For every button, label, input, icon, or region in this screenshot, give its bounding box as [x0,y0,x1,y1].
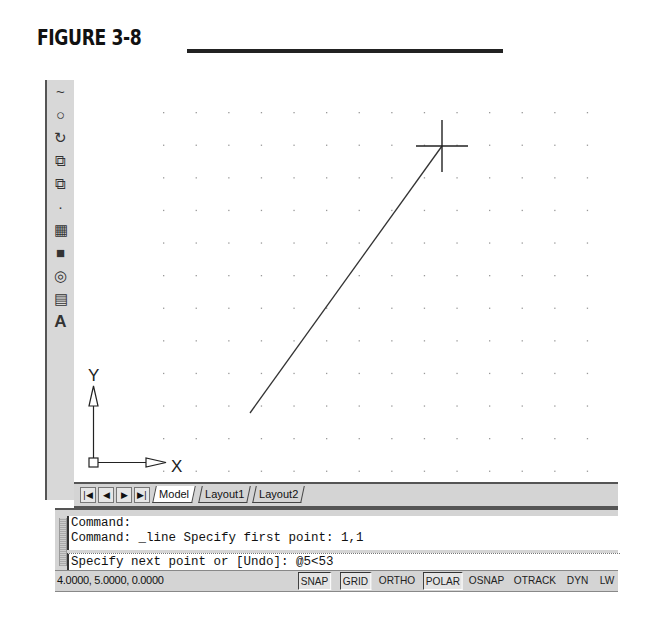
status-bar: 4.0000, 5.0000, 0.0000 SNAPGRIDORTHOPOLA… [55,570,618,592]
figure-rule [187,49,503,53]
tab-layout2[interactable]: Layout2 [252,486,305,503]
multiline-text-icon: A [54,312,66,332]
tab-layout1[interactable]: Layout1 [198,486,251,503]
status-toggle-polar[interactable]: POLAR [423,572,463,590]
spline-icon: ~ [56,83,65,100]
gradient-icon: ■ [56,244,65,261]
make-block-button[interactable]: ⧉ [47,172,74,195]
status-toggle-otrack[interactable]: OTRACK [512,572,558,588]
insert-block-button[interactable]: ⧉ [47,149,74,172]
crosshair-cursor [416,120,468,172]
table-button[interactable]: ▤ [47,287,74,310]
command-window: Command: Command: _line Specify first po… [55,508,618,570]
status-toggle-dyn[interactable]: DYN [565,572,590,588]
command-history: Command: Command: _line Specify first po… [67,516,620,550]
tab-prev-button[interactable]: ◀ [98,487,114,503]
grid-dots [163,112,588,472]
tab-next-button[interactable]: ▶ [116,487,132,503]
make-block-icon: ⧉ [55,175,66,193]
ellipse-icon: ○ [56,106,65,123]
point-button[interactable]: · [47,195,74,218]
gradient-button[interactable]: ■ [47,241,74,264]
region-button[interactable]: ◎ [47,264,74,287]
status-toggle-snap[interactable]: SNAP [298,572,331,590]
hatch-button[interactable]: ▦ [47,218,74,241]
command-history-line: Command: [71,516,620,531]
tab-first-button[interactable]: |◀ [80,487,96,503]
tab-model[interactable]: Model [152,486,196,503]
ellipse-arc-button[interactable]: ↻ [47,126,74,149]
ellipse-arc-icon: ↻ [54,129,67,147]
ucs-x-label: X [171,457,182,476]
table-icon: ▤ [54,290,68,308]
ucs-icon: Y X [88,366,182,476]
status-toggle-grid[interactable]: GRID [340,572,371,590]
region-icon: ◎ [54,267,67,285]
layout-tab-bar: |◀ ◀ ▶ ▶| Model Layout1 Layout2 [74,482,618,508]
drawing-area[interactable]: Y X [74,80,618,482]
draw-toolbar: ~○↻⧉⧉·▦■◎▤A [45,80,76,500]
coordinate-display: 4.0000, 5.0000, 0.0000 [57,574,164,586]
command-history-line: Command: _line Specify first point: 1,1 [71,531,620,546]
multiline-text-button[interactable]: A [47,310,74,333]
drawing-canvas[interactable]: Y X [74,80,618,482]
status-toggle-osnap[interactable]: OSNAP [467,572,506,588]
command-input[interactable]: Specify next point or [Undo]: @5<53 [67,553,620,570]
tab-last-button[interactable]: ▶| [134,487,150,503]
hatch-icon: ▦ [54,221,68,239]
point-icon: · [58,198,63,215]
insert-block-icon: ⧉ [55,152,66,170]
status-toggle-lw[interactable]: LW [598,572,616,588]
figure-title: FIGURE 3-8 [37,26,141,50]
ucs-y-label: Y [88,366,99,385]
status-toggle-ortho[interactable]: ORTHO [377,572,417,588]
command-window-grip[interactable] [59,518,67,566]
ellipse-button[interactable]: ○ [47,103,74,126]
spline-button[interactable]: ~ [47,80,74,103]
drawn-line [250,146,442,413]
